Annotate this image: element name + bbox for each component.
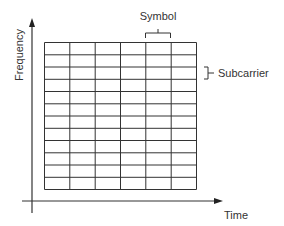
frequency-axis-arrow-icon [29, 18, 35, 27]
subcarrier-brace-icon [204, 67, 214, 79]
symbol-brace-icon [146, 29, 171, 38]
time-axis-arrow-icon [214, 198, 223, 204]
axes [22, 25, 215, 213]
subcarrier-label: Subcarrier [218, 67, 269, 79]
frequency-axis-label: Frequency [13, 29, 25, 81]
ofdm-grid-diagram: Symbol Subcarrier Frequency Time [0, 0, 284, 226]
resource-grid [45, 43, 197, 190]
symbol-label: Symbol [140, 10, 177, 22]
time-axis-label: Time [224, 209, 248, 221]
